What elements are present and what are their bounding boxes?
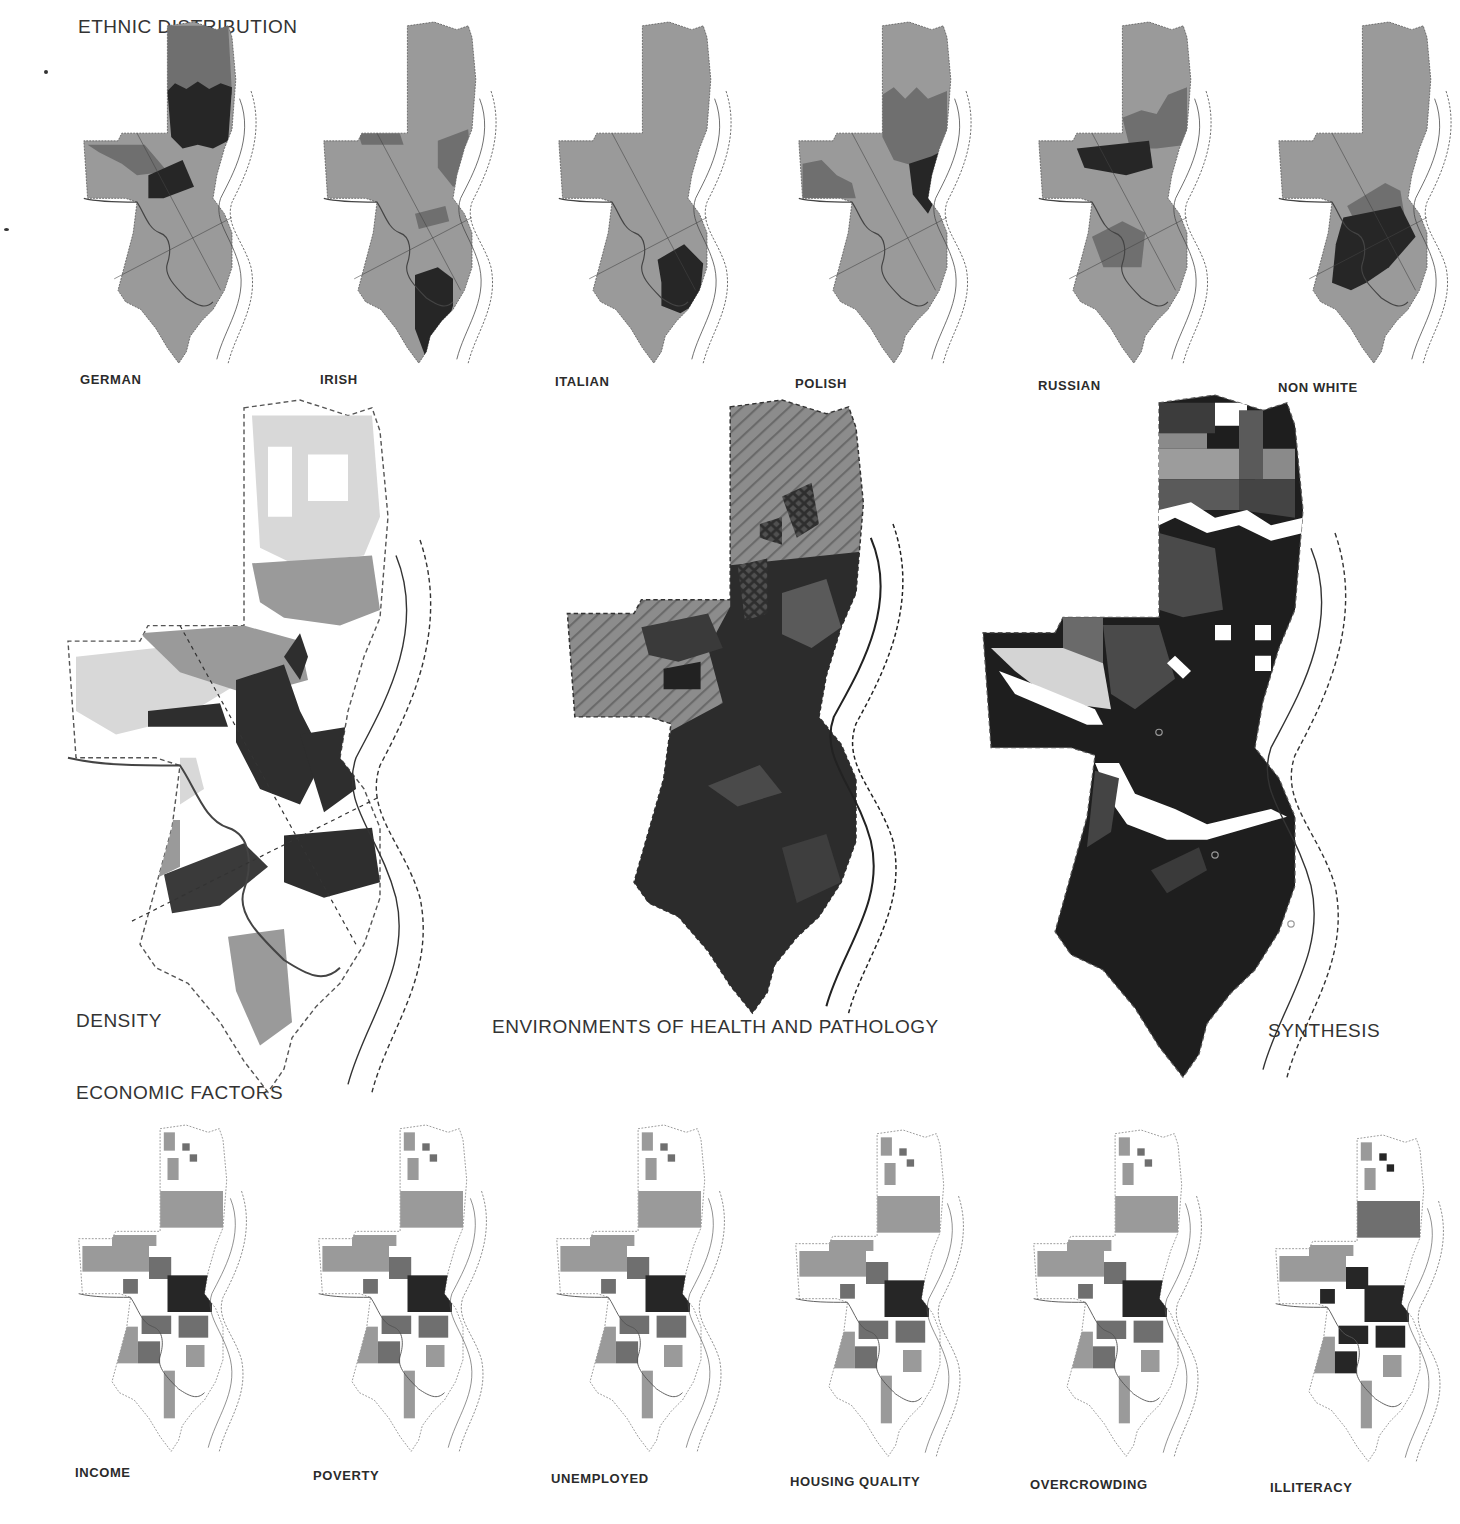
economic-label-unemployed: UNEMPLOYED <box>551 1471 649 1486</box>
health-pathology-map <box>560 400 930 1020</box>
ethnic-map-italian <box>555 22 745 367</box>
print-speck <box>4 228 9 231</box>
economic-map-poverty <box>315 1125 500 1455</box>
economic-map-unemployed <box>553 1125 738 1455</box>
economic-label-income: INCOME <box>75 1465 131 1480</box>
ethnic-map-polish <box>795 22 985 367</box>
economic-label-housing-quality: HOUSING QUALITY <box>790 1474 920 1489</box>
economic-map-housing-quality <box>792 1130 977 1460</box>
ethnic-label-polish: POLISH <box>795 376 847 391</box>
density-map <box>60 400 460 1100</box>
print-speck <box>44 70 48 74</box>
ethnic-map-russian <box>1035 22 1225 367</box>
ethnic-label-italian: ITALIAN <box>555 374 610 389</box>
ethnic-map-irish <box>320 22 510 367</box>
economic-label-illiteracy: ILLITERACY <box>1270 1480 1353 1495</box>
ethnic-label-russian: RUSSIAN <box>1038 378 1101 393</box>
economic-label-poverty: POVERTY <box>313 1468 379 1483</box>
economic-map-overcrowding <box>1030 1130 1215 1460</box>
ethnic-map-non-white <box>1275 22 1460 367</box>
ethnic-label-irish: IRISH <box>320 372 358 387</box>
economic-label-overcrowding: OVERCROWDING <box>1030 1477 1148 1492</box>
synthesis-map <box>975 395 1375 1085</box>
economic-map-illiteracy <box>1272 1135 1457 1465</box>
ethnic-label-non-white: NON WHITE <box>1278 380 1358 395</box>
ethnic-map-german <box>80 22 270 367</box>
ethnic-label-german: GERMAN <box>80 372 141 387</box>
economic-map-income <box>75 1125 260 1455</box>
